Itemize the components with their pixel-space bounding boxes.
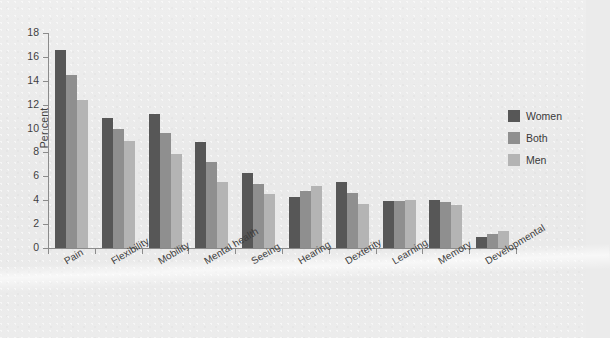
bar-group — [55, 33, 88, 248]
y-tick-8: 8 — [43, 152, 48, 153]
bar — [264, 194, 275, 248]
bar-group — [195, 33, 228, 248]
bar-group — [149, 33, 182, 248]
bar — [476, 237, 487, 248]
bar — [217, 182, 228, 248]
bar-group — [429, 33, 462, 248]
bar-group — [102, 33, 135, 248]
y-tick-4: 4 — [43, 200, 48, 201]
x-category-label: Pain — [62, 246, 85, 266]
bar — [394, 201, 405, 248]
bar — [113, 129, 124, 248]
bar — [300, 191, 311, 248]
y-tick-18: 18 — [43, 33, 48, 34]
bar — [66, 75, 77, 248]
chart-legend: WomenBothMen — [508, 105, 562, 171]
bar — [289, 197, 300, 248]
y-tick-6: 6 — [43, 176, 48, 177]
bar — [311, 186, 322, 248]
bar-group — [476, 33, 509, 248]
bar — [55, 50, 66, 248]
bar-group — [383, 33, 416, 248]
y-tick-12: 12 — [43, 105, 48, 106]
plot-area: 024681012141618 — [48, 33, 516, 248]
legend-item: Men — [508, 149, 562, 171]
bar — [405, 200, 416, 248]
y-tick-label: 8 — [33, 145, 39, 157]
y-tick-label: 18 — [27, 26, 39, 38]
bar — [253, 184, 264, 249]
bar-group — [336, 33, 369, 248]
bar-group — [289, 33, 322, 248]
legend-swatch — [508, 110, 520, 122]
legend-item: Women — [508, 105, 562, 127]
y-tick-label: 14 — [27, 74, 39, 86]
bar-group — [242, 33, 275, 248]
bar — [160, 133, 171, 248]
bar — [429, 200, 440, 248]
y-tick-label: 10 — [27, 122, 39, 134]
legend-label: Men — [526, 154, 546, 166]
y-tick-label: 12 — [27, 98, 39, 110]
legend-swatch — [508, 154, 520, 166]
y-tick-label: 0 — [33, 241, 39, 253]
bar — [124, 141, 135, 249]
bar — [171, 154, 182, 248]
y-tick-label: 4 — [33, 193, 39, 205]
y-tick-2: 2 — [43, 224, 48, 225]
y-tick-label: 6 — [33, 169, 39, 181]
bar — [336, 182, 347, 248]
bar — [149, 114, 160, 248]
y-tick-16: 16 — [43, 57, 48, 58]
bar — [102, 118, 113, 248]
bar — [206, 162, 217, 248]
legend-swatch — [508, 132, 520, 144]
bar — [440, 202, 451, 248]
legend-item: Both — [508, 127, 562, 149]
legend-label: Both — [526, 132, 548, 144]
y-tick-14: 14 — [43, 81, 48, 82]
bar — [383, 201, 394, 248]
x-tick — [282, 248, 283, 254]
bar — [77, 100, 88, 248]
x-tick — [48, 248, 49, 254]
bar — [195, 142, 206, 248]
bar — [487, 234, 498, 248]
bar — [347, 193, 358, 248]
legend-label: Women — [526, 110, 562, 122]
y-tick-10: 10 — [43, 129, 48, 130]
y-tick-label: 16 — [27, 50, 39, 62]
y-tick-label: 2 — [33, 217, 39, 229]
x-tick — [95, 248, 96, 254]
y-axis-line — [48, 33, 49, 249]
